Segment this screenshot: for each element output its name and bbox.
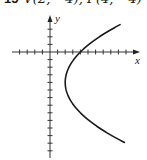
parabola-curve: [65, 25, 124, 143]
y-axis: y: [48, 12, 61, 158]
y-axis-label: y: [54, 12, 60, 24]
parabola-graph: x y: [0, 0, 147, 160]
y-axis-arrow-icon: [48, 15, 53, 22]
x-axis-label: x: [134, 54, 140, 66]
